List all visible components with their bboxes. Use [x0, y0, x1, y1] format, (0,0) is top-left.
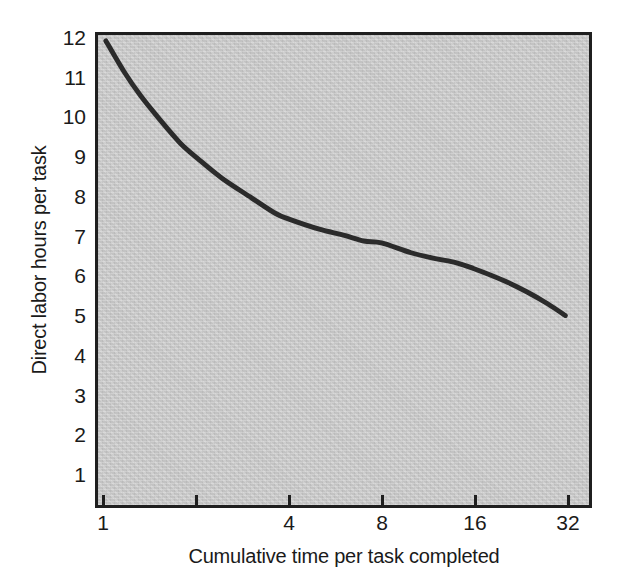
learning-curve-line — [106, 41, 565, 316]
x-tick-label: 8 — [352, 511, 412, 534]
x-tick-label: 1 — [73, 511, 133, 534]
y-tick-label: 2 — [46, 424, 86, 445]
x-axis-title: Cumulative time per task completed — [95, 545, 593, 568]
y-tick-label: 9 — [46, 146, 86, 167]
y-tick-label: 11 — [46, 67, 86, 88]
y-tick-label: 8 — [46, 186, 86, 207]
y-tick-label: 4 — [46, 345, 86, 366]
x-tick-mark — [567, 495, 570, 508]
x-tick-label: 32 — [538, 511, 598, 534]
x-tick-label: 16 — [445, 511, 505, 534]
y-tick-label: 1 — [46, 464, 86, 485]
x-tick-mark — [288, 495, 291, 508]
y-tick-label: 5 — [46, 305, 86, 326]
plot-area — [95, 32, 592, 508]
x-tick-mark — [381, 495, 384, 508]
y-tick-label: 6 — [46, 265, 86, 286]
data-curve-svg — [98, 35, 589, 505]
y-tick-label: 12 — [46, 27, 86, 48]
x-tick-label: 4 — [259, 511, 319, 534]
y-tick-label: 3 — [46, 385, 86, 406]
x-tick-mark — [195, 495, 198, 508]
x-tick-mark — [474, 495, 477, 508]
y-tick-label: 10 — [46, 106, 86, 127]
y-tick-label: 7 — [46, 226, 86, 247]
x-tick-mark — [102, 495, 105, 508]
learning-curve-chart: Direct labor hours per task 121110987654… — [0, 0, 618, 587]
